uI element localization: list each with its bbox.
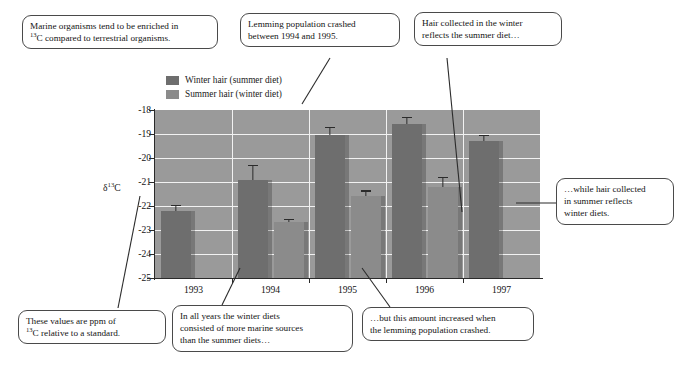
x-tick-label-1996: 1996 [415, 284, 434, 295]
callout-increase-line2: the lemming population crashed. [370, 325, 490, 335]
gridline-vertical [232, 110, 233, 278]
callout-marine-line1: Marine organisms tend to be enriched in [30, 21, 178, 31]
callout-all-years-winter-diets: In all years the winter diets consisted … [172, 305, 353, 352]
chart-legend: Winter hair (summer diet) Summer hair (w… [166, 74, 282, 102]
callout-summer-line1: …while hair collected [564, 184, 646, 194]
error-bar-1993-winter-hair [171, 205, 181, 211]
callout-marine-line2: C compared to terrestrial organisms. [37, 33, 171, 43]
callout-marine-organisms: Marine organisms tend to be enriched in … [22, 15, 218, 49]
callout-lemming-line1: Lemming population crashed [248, 19, 356, 29]
x-tick-mark [386, 278, 387, 283]
y-axis-title-carbon: C [114, 182, 120, 193]
bar-shadow [458, 187, 462, 278]
x-tick-label-1993: 1993 [184, 284, 203, 295]
callout-ppm-standard: These values are ppm of 13C relative to … [18, 310, 166, 344]
x-axis-line [147, 278, 543, 279]
gridline-vertical [386, 110, 387, 278]
gridline-vertical [463, 110, 464, 278]
bar-face [428, 187, 458, 278]
error-bar-1994-winter-hair [248, 165, 258, 179]
legend-item-summer-hair: Summer hair (winter diet) [166, 88, 282, 101]
bar-face [315, 135, 345, 278]
bar-1994-summer-hair [274, 222, 304, 278]
error-bar-stem [442, 177, 443, 187]
y-tick-mark [149, 134, 155, 135]
legend-swatch-summer-hair [166, 90, 179, 99]
callout-ppm-superscript: 13 [26, 326, 33, 333]
bar-1994-winter-hair [238, 180, 268, 278]
x-tick-label-1994: 1994 [261, 284, 280, 295]
y-tick-mark [149, 278, 155, 279]
callout-allyears-line2: consisted of more marine sources [180, 323, 303, 333]
error-bar-1996-winter-hair [402, 117, 412, 124]
bar-1993-winter-hair [161, 211, 191, 278]
x-tick-mark [232, 278, 233, 283]
error-bar-cap [438, 177, 448, 178]
y-tick-mark [149, 110, 155, 111]
y-tick-mark [149, 206, 155, 207]
bar-shadow [499, 141, 503, 278]
legend-label-summer-hair: Summer hair (winter diet) [185, 89, 282, 100]
callout-winter-hair: Hair collected in the winter reflects th… [414, 12, 562, 46]
x-tick-label-1997: 1997 [492, 284, 511, 295]
legend-label-winter-hair: Winter hair (summer diet) [185, 75, 282, 86]
bar-shadow [304, 222, 308, 278]
bar-shadow [381, 196, 385, 278]
bar-face [274, 222, 304, 278]
callout-summer-line3: winter diets. [564, 208, 609, 218]
error-bar-1995-winter-hair [325, 127, 335, 135]
error-bar-cap [361, 190, 371, 191]
callout-lemming-line2: between 1994 and 1995. [248, 31, 338, 41]
callout-ppm-line2: C relative to a standard. [33, 328, 121, 338]
error-bar-cap [284, 219, 294, 220]
bar-face [351, 196, 381, 278]
bar-shadow [191, 211, 195, 278]
callout-ppm-line1: These values are ppm of [26, 316, 116, 326]
bar-1996-summer-hair [428, 187, 458, 278]
callout-allyears-line3: than the summer diets… [180, 335, 270, 345]
bar-1995-summer-hair [351, 196, 381, 278]
callout-summer-hair: …while hair collected in summer reflects… [556, 178, 674, 225]
figure-canvas: δ13C -18-19-20-21-22-23-24-25 1993199419… [0, 0, 682, 378]
y-tick-mark [149, 230, 155, 231]
bar-face [469, 141, 499, 278]
callout-marine-superscript: 13 [30, 31, 37, 38]
callout-increase-line1: …but this amount increased when [370, 313, 496, 323]
bar-shadow [422, 124, 426, 278]
error-bar-cap [479, 135, 489, 136]
legend-swatch-winter-hair [166, 76, 179, 85]
error-bar-stem [252, 165, 253, 179]
bar-1997-winter-hair [469, 141, 499, 278]
callout-summer-line2: in summer reflects [564, 196, 632, 206]
y-tick-mark [149, 254, 155, 255]
legend-item-winter-hair: Winter hair (summer diet) [166, 74, 282, 87]
y-tick-mark [149, 158, 155, 159]
x-tick-label-1995: 1995 [338, 284, 357, 295]
bar-shadow [345, 135, 349, 278]
error-bar-cap [325, 127, 335, 128]
y-tick-mark [149, 182, 155, 183]
callout-amount-increased: …but this amount increased when the lemm… [362, 307, 534, 341]
callout-winter-line1: Hair collected in the winter [422, 18, 523, 28]
error-bar-1996-summer-hair [438, 177, 448, 187]
bar-face [238, 180, 268, 278]
bar-face [161, 211, 191, 278]
x-tick-mark [309, 278, 310, 283]
error-bar-1994-summer-hair [284, 219, 294, 221]
gridline-vertical [309, 110, 310, 278]
bar-1995-winter-hair [315, 135, 345, 278]
error-bar-cap [248, 165, 258, 166]
bar-shadow [268, 180, 272, 278]
callout-winter-line2: reflects the summer diet… [422, 30, 520, 40]
callout-lemming-crash: Lemming population crashed between 1994 … [240, 13, 400, 47]
error-bar-1995-summer-hair [361, 190, 371, 196]
x-tick-mark [463, 278, 464, 283]
y-axis-title: δ13C [103, 182, 121, 193]
callout-allyears-line1: In all years the winter diets [180, 311, 280, 321]
bar-face [392, 124, 422, 278]
error-bar-cap [171, 205, 181, 206]
error-bar-cap [402, 117, 412, 118]
bar-1996-winter-hair [392, 124, 422, 278]
error-bar-1997-winter-hair [479, 135, 489, 141]
